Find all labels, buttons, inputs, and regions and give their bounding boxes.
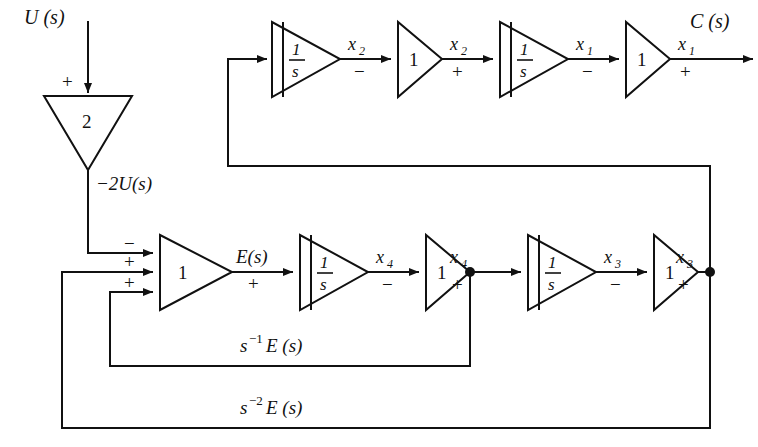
gain-2-label: 2 xyxy=(82,111,92,132)
gain-1-block-x1[interactable]: 1 xyxy=(626,22,670,97)
x4-pre-subscript: 4 xyxy=(387,257,393,271)
input-signal-group: U (s) + xyxy=(24,6,88,92)
x4-plus-sign: + xyxy=(452,274,463,295)
feedback-s1-prefix: s xyxy=(240,335,247,356)
summing-gain-1-block[interactable]: 1 xyxy=(160,235,232,310)
integrator-block-x3[interactable]: 1 s xyxy=(528,235,596,310)
summer-input2-sign: + xyxy=(124,251,135,272)
gain-1-x2-label: 1 xyxy=(409,49,419,70)
x1-plus-sign: + xyxy=(680,61,691,82)
input-plus-sign: + xyxy=(62,71,73,92)
block-diagram-figure: U (s) + 2 −2U(s) − 1 + + E(s) + 1 s xyxy=(0,0,758,447)
integrator-x4-numerator: 1 xyxy=(320,253,329,272)
gain-1-x1-triangle xyxy=(626,22,670,97)
integrator-x2-denominator: s xyxy=(292,62,299,81)
integrator-x3-numerator: 1 xyxy=(548,253,557,272)
x1-pre-sign: − xyxy=(582,61,593,82)
gain-1-block-x2[interactable]: 1 xyxy=(398,22,442,97)
x4-label: x xyxy=(449,247,458,267)
error-label: E(s) xyxy=(235,246,268,268)
x2-pre-sign: − xyxy=(354,61,365,82)
feedback-s1-label-group: s −1 E (s) xyxy=(240,331,302,357)
x2-pre-subscript: 2 xyxy=(359,44,365,58)
integrator-block-x2[interactable]: 1 s xyxy=(272,22,340,97)
x2-plus-sign: + xyxy=(452,61,463,82)
gain2-output-path: −2U(s) − xyxy=(88,170,152,254)
x3-pre-label: x xyxy=(603,247,612,267)
x3-pre-signal-group: x 3 − xyxy=(596,247,646,295)
x2-label: x xyxy=(449,34,458,54)
gain-1-x4-label: 1 xyxy=(437,262,447,283)
integrator-x4-denominator: s xyxy=(320,275,327,294)
x3-pre-subscript: 3 xyxy=(614,257,621,271)
x4-pre-signal-group: x 4 − xyxy=(368,247,418,295)
error-plus-sign: + xyxy=(248,273,259,294)
feedback-s2-label-group: s −2 E (s) xyxy=(240,393,302,419)
summer-gain-label: 1 xyxy=(178,262,188,283)
integrator-x2-numerator: 1 xyxy=(292,40,301,59)
x3-label: x xyxy=(675,247,684,267)
x1-pre-label: x xyxy=(575,34,584,54)
feedback-s2-exponent: −2 xyxy=(249,393,263,408)
integrator-x3-denominator: s xyxy=(548,275,555,294)
integrator-block-x1[interactable]: 1 s xyxy=(500,22,568,97)
output-signal-group: x 1 + C (s) xyxy=(670,10,752,82)
input-label: U (s) xyxy=(24,6,65,29)
x1-label: x xyxy=(677,34,686,54)
integrator-block-x4[interactable]: 1 s xyxy=(300,235,368,310)
x3-plus-sign: + xyxy=(678,274,689,295)
gain2-output-label: −2U(s) xyxy=(96,173,152,195)
block-diagram-canvas: U (s) + 2 −2U(s) − 1 + + E(s) + 1 s xyxy=(0,0,758,447)
summer-input3-sign: + xyxy=(124,272,135,293)
x1-pre-subscript: 1 xyxy=(587,44,593,58)
x2-signal-group: x 2 + xyxy=(442,34,492,82)
x3-pre-sign: − xyxy=(610,274,621,295)
x2-subscript: 2 xyxy=(461,44,467,58)
integrator-x1-denominator: s xyxy=(520,62,527,81)
gain-1-x1-label: 1 xyxy=(637,49,647,70)
gain-2-block[interactable]: 2 xyxy=(44,96,132,170)
feedback-s2-prefix: s xyxy=(240,397,247,418)
x1-subscript: 1 xyxy=(689,44,695,58)
gain-1-x3-label: 1 xyxy=(665,262,675,283)
integrator-x1-numerator: 1 xyxy=(520,40,529,59)
feedback-s2-label: E (s) xyxy=(265,397,302,419)
x4-pre-label: x xyxy=(375,247,384,267)
error-signal-group: E(s) + xyxy=(232,246,292,294)
x3-subscript: 3 xyxy=(686,257,693,271)
feedback-s1-label: E (s) xyxy=(265,335,302,357)
output-label: C (s) xyxy=(690,10,730,33)
gain-1-x2-triangle xyxy=(398,22,442,97)
x1-pre-signal-group: x 1 − xyxy=(568,34,618,82)
x4-subscript: 4 xyxy=(461,257,467,271)
summer-triangle xyxy=(160,235,232,310)
x4-pre-sign: − xyxy=(382,274,393,295)
feedback-s1-exponent: −1 xyxy=(249,331,263,346)
gain-1-block-x4[interactable]: 1 xyxy=(426,235,470,310)
gain-1-x4-triangle xyxy=(426,235,470,310)
x2-pre-label: x xyxy=(347,34,356,54)
x2-pre-signal-group: x 2 − xyxy=(340,34,390,82)
gain-2-triangle xyxy=(44,96,132,170)
summer-feedback-inputs: + + xyxy=(62,251,152,293)
